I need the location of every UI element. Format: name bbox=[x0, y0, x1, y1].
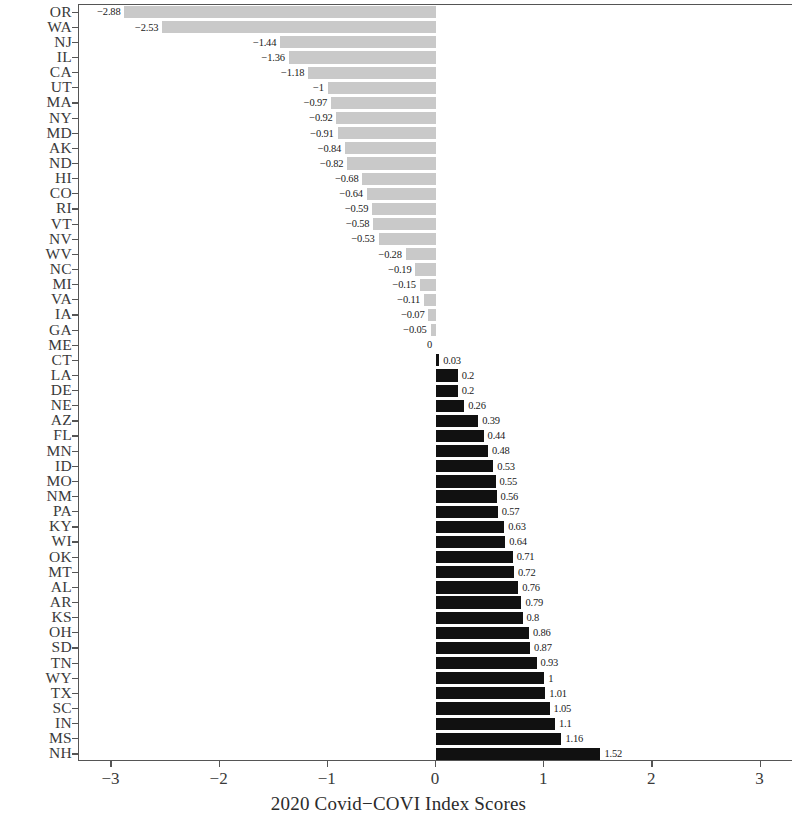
bar bbox=[280, 36, 436, 48]
bar bbox=[436, 642, 530, 654]
bar bbox=[436, 490, 497, 502]
bar bbox=[373, 218, 436, 230]
bar-row: 0.56 bbox=[79, 489, 792, 504]
y-axis-label-ri: RI bbox=[16, 200, 72, 215]
bar-row: 0.64 bbox=[79, 535, 792, 550]
bar-row: −0.07 bbox=[79, 308, 792, 323]
bar-row: −0.53 bbox=[79, 232, 792, 247]
bar-row: −0.15 bbox=[79, 278, 792, 293]
bar-value-label: 1.16 bbox=[565, 732, 583, 745]
y-axis-label-nm: NM bbox=[16, 488, 72, 503]
y-axis-label-ar: AR bbox=[16, 594, 72, 609]
y-axis-label-ga: GA bbox=[16, 322, 72, 337]
x-axis-tick bbox=[651, 761, 652, 767]
bar-value-label: 0.2 bbox=[462, 384, 475, 397]
x-axis-tick bbox=[327, 761, 328, 767]
bar bbox=[428, 309, 436, 321]
y-axis-label-hi: HI bbox=[16, 170, 72, 185]
bar-value-label: 0 bbox=[427, 338, 432, 351]
bar-value-label: 0.72 bbox=[518, 566, 536, 579]
bar bbox=[436, 551, 513, 563]
y-axis-label-ia: IA bbox=[16, 306, 72, 321]
bar-row: −0.28 bbox=[79, 247, 792, 262]
y-axis-label-az: AZ bbox=[16, 412, 72, 427]
bar bbox=[162, 21, 436, 33]
y-axis-label-mo: MO bbox=[16, 473, 72, 488]
y-axis-label-tx: TX bbox=[16, 685, 72, 700]
bar-row: 0.53 bbox=[79, 459, 792, 474]
x-axis-tick-label: 1 bbox=[513, 769, 573, 789]
bar bbox=[436, 702, 550, 714]
bar-value-label: −1.36 bbox=[262, 51, 285, 64]
bar-value-label: −1.18 bbox=[281, 66, 304, 79]
bar-row: 0.93 bbox=[79, 656, 792, 671]
bar-value-label: −0.59 bbox=[345, 202, 368, 215]
bar-value-label: 0.2 bbox=[462, 369, 475, 382]
bar-row: −1.36 bbox=[79, 50, 792, 65]
bar-value-label: 0.39 bbox=[482, 414, 500, 427]
bar-value-label: −0.92 bbox=[309, 111, 332, 124]
bar bbox=[367, 188, 436, 200]
y-axis-label-la: LA bbox=[16, 367, 72, 382]
x-axis-tick-label: 3 bbox=[730, 769, 790, 789]
bar-row: −2.88 bbox=[79, 5, 792, 20]
bar-value-label: −0.15 bbox=[392, 278, 415, 291]
bar-value-label: 0.44 bbox=[488, 429, 506, 442]
bar-row: −1.44 bbox=[79, 35, 792, 50]
bar-value-label: 1.05 bbox=[554, 702, 572, 715]
bar-value-label: −0.64 bbox=[339, 187, 362, 200]
bar-row: 0.2 bbox=[79, 368, 792, 383]
bar bbox=[406, 248, 436, 260]
bar-value-label: −1.44 bbox=[253, 36, 276, 49]
bar bbox=[308, 67, 436, 79]
y-axis-label-ak: AK bbox=[16, 140, 72, 155]
y-axis-state-labels: ORWANJILCAUTMANYMDAKNDHICORIVTNVWVNCMIVA… bbox=[0, 4, 72, 761]
bar bbox=[124, 6, 436, 18]
bar-row: −1 bbox=[79, 81, 792, 96]
bar-value-label: −0.91 bbox=[310, 127, 333, 140]
bar-value-label: 0.03 bbox=[443, 354, 461, 367]
x-axis-tick bbox=[110, 761, 111, 767]
x-axis-tick bbox=[543, 761, 544, 767]
bar bbox=[436, 596, 521, 608]
bar-row: 0.8 bbox=[79, 611, 792, 626]
bar-row: 0.44 bbox=[79, 429, 792, 444]
bar-row: 0 bbox=[79, 338, 792, 353]
x-axis-tick-label: 2 bbox=[621, 769, 681, 789]
bar-row: 0.87 bbox=[79, 641, 792, 656]
y-axis-label-ks: KS bbox=[16, 609, 72, 624]
bar-row: 0.03 bbox=[79, 353, 792, 368]
bar-value-label: 1.01 bbox=[549, 687, 567, 700]
bar-value-label: −0.28 bbox=[378, 248, 401, 261]
bar-value-label: 0.64 bbox=[509, 535, 527, 548]
bar-value-label: 0.63 bbox=[508, 520, 526, 533]
bar bbox=[328, 82, 436, 94]
bar bbox=[436, 627, 529, 639]
bar bbox=[331, 97, 436, 109]
y-axis-label-wv: WV bbox=[16, 246, 72, 261]
y-axis-label-ma: MA bbox=[16, 94, 72, 109]
y-axis-label-wy: WY bbox=[16, 670, 72, 685]
y-axis-label-wi: WI bbox=[16, 533, 72, 548]
bar-row: −1.18 bbox=[79, 66, 792, 81]
bar-row: 1 bbox=[79, 671, 792, 686]
bar-row: 0.71 bbox=[79, 550, 792, 565]
y-axis-label-al: AL bbox=[16, 579, 72, 594]
y-axis-label-or: OR bbox=[16, 4, 72, 19]
bar-value-label: 0.56 bbox=[501, 490, 519, 503]
bar-value-label: 0.26 bbox=[468, 399, 486, 412]
y-axis-label-nh: NH bbox=[16, 745, 72, 760]
bar-value-label: 0.86 bbox=[533, 626, 551, 639]
bar bbox=[431, 324, 436, 336]
y-axis-label-nj: NJ bbox=[16, 34, 72, 49]
bar bbox=[347, 157, 436, 169]
bar-row: 1.52 bbox=[79, 747, 792, 762]
bar-row: −0.11 bbox=[79, 293, 792, 308]
bar bbox=[420, 279, 436, 291]
bar bbox=[436, 369, 458, 381]
bar-value-label: −0.11 bbox=[397, 293, 420, 306]
bar bbox=[338, 127, 436, 139]
bar bbox=[436, 672, 544, 684]
x-axis-tick bbox=[760, 761, 761, 767]
y-axis-label-pa: PA bbox=[16, 503, 72, 518]
